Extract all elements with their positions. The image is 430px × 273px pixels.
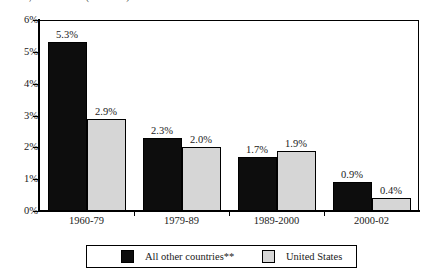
bar-1979-89-all-other-countries <box>143 138 182 211</box>
x-axis-tick-mark <box>229 211 230 216</box>
legend-item-all-other-countries: All other countries** <box>121 246 234 267</box>
x-axis-tick-mark <box>134 211 135 216</box>
x-axis-tick-mark <box>324 211 325 216</box>
x-axis-category-label: 2000-02 <box>324 213 419 228</box>
bar-2000-02-united-states <box>372 198 411 211</box>
bar-1960-79-all-other-countries <box>48 42 87 211</box>
x-axis-category-label: 1979-89 <box>134 213 229 228</box>
bar-value-label: 2.9% <box>80 106 133 117</box>
legend-swatch <box>262 250 275 263</box>
bar-value-label: 0.4% <box>365 185 418 196</box>
bar-1960-79-united-states <box>87 119 126 211</box>
chart-legend: All other countries**United States <box>86 245 357 268</box>
legend-label: All other countries** <box>145 251 234 262</box>
bar-1979-89-united-states <box>182 147 221 211</box>
x-axis-category-label: 1989-2000 <box>229 213 324 228</box>
y-axis: 0%1%2%3%4%5%6% <box>0 0 38 273</box>
bar-value-label: 0.9% <box>326 169 379 180</box>
legend-label: United States <box>286 251 342 262</box>
bar-1989-2000-all-other-countries <box>238 157 277 211</box>
chart-title-clipped: Table, Chart or Box (continued) <box>8 0 422 3</box>
bar-value-label: 1.9% <box>270 138 323 149</box>
legend-swatch <box>121 250 134 263</box>
bar-value-label: 5.3% <box>41 29 94 40</box>
bar-1989-2000-united-states <box>277 151 316 211</box>
x-axis-category-label: 1960-79 <box>39 213 134 228</box>
legend-item-united-states: United States <box>262 246 342 267</box>
bar-value-label: 2.0% <box>175 134 228 145</box>
